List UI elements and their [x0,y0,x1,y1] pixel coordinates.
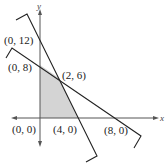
feasible-region-graph: x y (0, 12) (0, 8) (2, 6) (0, 0) (4, 0) … [0,0,165,167]
x-axis-left-arrow-icon [11,116,17,120]
point-label-4-0: (4, 0) [53,123,77,136]
point-label-0-8: (0, 8) [8,61,32,74]
x-axis-right-arrow-icon [153,116,159,120]
y-axis-bottom-arrow-icon [38,141,42,147]
x-axis: x [11,113,164,123]
x-axis-label: x [159,113,164,123]
point-label-0-12: (0, 12) [4,34,34,47]
point-label-8-0: (8, 0) [104,124,128,137]
point-label-0-0: (0, 0) [12,123,36,136]
y-axis-label: y [36,1,41,11]
point-label-2-6: (2, 6) [62,69,86,82]
